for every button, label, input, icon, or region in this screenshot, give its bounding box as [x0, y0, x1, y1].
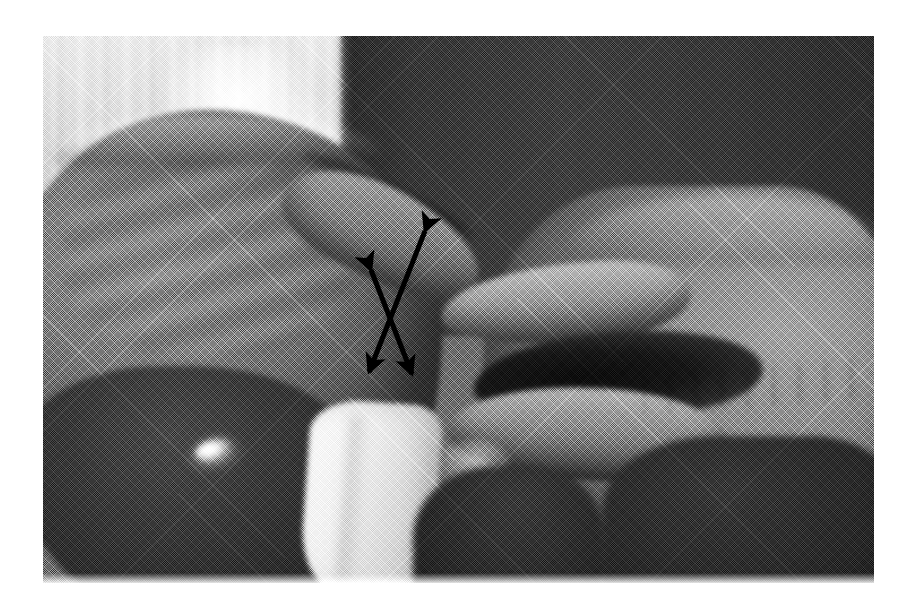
photograph — [43, 36, 874, 583]
right-hand-thumb-shadow — [413, 466, 603, 583]
figure-page — [0, 0, 915, 604]
right-hand-wrist-shadow — [603, 436, 874, 583]
